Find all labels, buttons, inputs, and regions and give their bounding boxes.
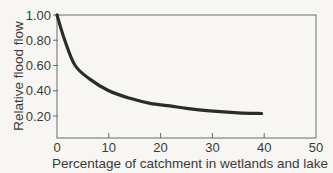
x-tick-label: 10 xyxy=(102,140,116,155)
x-tick-label: 20 xyxy=(153,140,167,155)
x-tick-label: 50 xyxy=(309,140,323,155)
x-tick-label: 40 xyxy=(257,140,271,155)
flood-flow-chart: 0.200.400.600.801.00 01020304050 Percent… xyxy=(0,0,333,173)
y-axis-title: Relative flood flow xyxy=(11,21,26,131)
y-axis-ticks: 0.200.400.600.801.00 xyxy=(26,8,58,124)
plot-frame xyxy=(57,15,316,138)
y-tick-label: 0.20 xyxy=(26,109,51,124)
x-tick-label: 30 xyxy=(205,140,219,155)
y-tick-label: 0.60 xyxy=(26,58,51,73)
flood-flow-curve xyxy=(57,15,262,113)
y-tick-label: 1.00 xyxy=(26,8,51,23)
x-axis-title: Percentage of catchment in wetlands and … xyxy=(52,156,328,171)
y-tick-label: 0.40 xyxy=(26,83,51,98)
x-tick-label: 0 xyxy=(53,140,60,155)
y-tick-label: 0.80 xyxy=(26,33,51,48)
x-axis-ticks: 01020304050 xyxy=(53,133,323,155)
